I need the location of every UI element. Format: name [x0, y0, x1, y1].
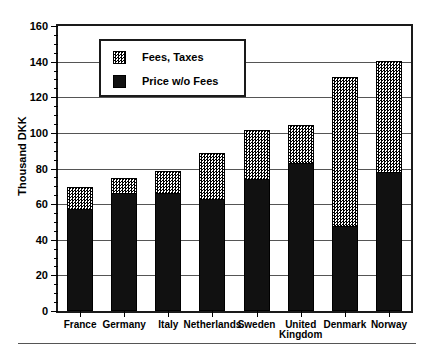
bar-segment-price-wo-fees: [288, 163, 314, 311]
x-tick: [389, 311, 390, 317]
y-tick-major: [51, 204, 58, 205]
bar-segment-price-wo-fees: [199, 199, 225, 311]
x-tick-label: Denmark: [323, 320, 366, 330]
y-axis-title: Thousand DKK: [16, 91, 28, 221]
x-tick: [257, 311, 258, 317]
bottom-divider: [18, 343, 416, 344]
bar-segment-fees-taxes: [199, 153, 225, 199]
bar-segment-price-wo-fees: [244, 179, 270, 311]
x-tick-label: Norway: [371, 320, 407, 330]
y-tick-label: 80: [36, 163, 48, 174]
y-tick-label: 120: [30, 92, 48, 103]
x-tick-label: France: [64, 320, 97, 330]
y-tick-major: [51, 97, 58, 98]
bar-segment-price-wo-fees: [155, 193, 181, 311]
y-tick-major: [51, 133, 58, 134]
legend-label-price-wo-fees: Price w/o Fees: [142, 75, 218, 87]
x-tick: [212, 311, 213, 317]
y-tick-major: [51, 62, 58, 63]
legend-swatch-price-wo-fees: [113, 75, 126, 88]
y-tick-major: [51, 311, 58, 312]
bar-segment-price-wo-fees: [376, 172, 402, 311]
chart-figure: Thousand DKK 020406080100120140160 Franc…: [0, 0, 427, 354]
y-tick-label: 60: [36, 199, 48, 210]
x-tick: [301, 311, 302, 317]
x-tick: [80, 311, 81, 317]
plot-area: 020406080100120140160 FranceGermanyItaly…: [56, 24, 413, 313]
bar-segment-fees-taxes: [67, 187, 93, 210]
bar-segment-fees-taxes: [376, 61, 402, 173]
y-tick-major: [51, 26, 58, 27]
x-tick-label: United Kingdom: [279, 320, 322, 340]
bar-group: [376, 26, 402, 311]
x-tick: [124, 311, 125, 317]
bar-group: [332, 26, 358, 311]
y-tick-label: 0: [42, 306, 48, 317]
x-tick-label: Netherlands: [184, 320, 242, 330]
y-tick-label: 20: [36, 270, 48, 281]
chart-legend: Fees, Taxes Price w/o Fees: [99, 39, 246, 97]
bar-segment-price-wo-fees: [111, 193, 137, 311]
y-tick-label: 100: [30, 127, 48, 138]
bar-segment-fees-taxes: [244, 130, 270, 180]
bar-segment-fees-taxes: [288, 125, 314, 164]
bar-group: [244, 26, 270, 311]
bar-segment-fees-taxes: [332, 77, 358, 227]
bar-group: [288, 26, 314, 311]
bar-segment-price-wo-fees: [67, 209, 93, 311]
y-tick-major: [51, 275, 58, 276]
legend-entry-price-wo-fees: Price w/o Fees: [113, 74, 218, 88]
y-tick-major: [51, 240, 58, 241]
x-tick-label: Sweden: [238, 320, 276, 330]
x-tick: [168, 311, 169, 317]
legend-swatch-fees-taxes: [113, 51, 126, 64]
bar-segment-fees-taxes: [111, 178, 137, 194]
x-tick-label: Germany: [103, 320, 146, 330]
y-tick-label: 40: [36, 234, 48, 245]
bar-group: [67, 26, 93, 311]
x-tick: [345, 311, 346, 317]
x-tick-label: Italy: [158, 320, 178, 330]
y-tick-label: 160: [30, 21, 48, 32]
y-tick-label: 140: [30, 56, 48, 67]
bar-segment-fees-taxes: [155, 171, 181, 194]
legend-label-fees-taxes: Fees, Taxes: [142, 51, 204, 63]
legend-entry-fees-taxes: Fees, Taxes: [113, 50, 204, 64]
bar-segment-price-wo-fees: [332, 226, 358, 312]
y-tick-major: [51, 169, 58, 170]
